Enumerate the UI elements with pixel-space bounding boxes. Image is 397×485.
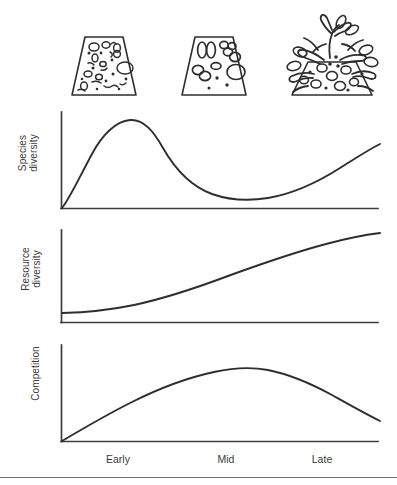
early-stage-plot (68, 0, 140, 106)
soil-plot-overgrown-icon (278, 0, 388, 106)
axis-title-line-1: Competition (30, 341, 41, 407)
footer-divider (0, 477, 397, 478)
species-diversity-panel: Species diversity (0, 106, 397, 214)
competition-curve (62, 368, 380, 441)
axis-title-line-2: diversity (31, 230, 42, 308)
species-diversity-axis-title: Species diversity (17, 117, 39, 189)
resource-diversity-curve (62, 233, 380, 313)
habitat-illustration-strip (0, 0, 397, 106)
panel1-axes (61, 112, 378, 209)
resource-diversity-axis-title: Resource diversity (20, 230, 42, 308)
axis-title-line-1: Species (17, 117, 28, 189)
x-tick-early: Early (106, 450, 130, 468)
x-tick-late: Late (312, 450, 332, 468)
species-diversity-curve (62, 120, 380, 208)
competition-panel: Competition (0, 340, 397, 450)
mid-stage-plot (178, 0, 250, 106)
late-stage-plot (278, 0, 388, 106)
soil-plot-sparse-icon (68, 0, 140, 106)
succession-figure: Species diversity Resource diversity C (0, 0, 397, 485)
competition-axis-title: Competition (30, 341, 41, 407)
resource-diversity-panel: Resource diversity (0, 226, 397, 330)
soil-plot-medium-icon (178, 0, 250, 106)
x-axis-tick-labels: Early Mid Late (61, 450, 379, 468)
x-tick-mid: Mid (218, 450, 235, 468)
axis-title-line-1: Resource (20, 230, 31, 308)
axis-title-line-2: diversity (28, 117, 39, 189)
